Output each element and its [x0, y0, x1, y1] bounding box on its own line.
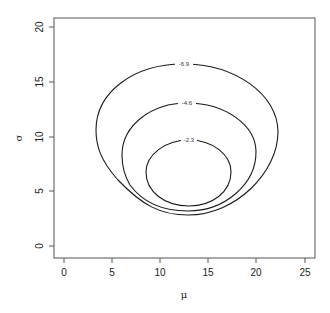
contour-inner	[146, 140, 231, 206]
y-tick-10: 10	[34, 131, 45, 143]
x-tick-5: 5	[109, 267, 115, 278]
x-axis	[64, 258, 305, 263]
contour-label-outer: -6.9	[179, 61, 190, 67]
contour-middle	[122, 103, 256, 211]
x-tick-15: 15	[202, 267, 214, 278]
x-axis-title: μ	[181, 289, 188, 300]
y-tick-0: 0	[34, 243, 45, 249]
contour-plot: 0 5 10 15 20 25 0 5 10 15 20 μ σ -6.9 -4…	[0, 0, 330, 313]
x-tick-20: 20	[250, 267, 262, 278]
contour-label-middle: -4.6	[182, 100, 193, 106]
contour-label-inner: -2.3	[184, 137, 195, 143]
x-tick-25: 25	[299, 267, 311, 278]
x-tick-0: 0	[61, 267, 67, 278]
y-tick-labels: 0 5 10 15 20	[34, 21, 45, 249]
y-tick-20: 20	[34, 21, 45, 33]
x-tick-10: 10	[154, 267, 166, 278]
x-tick-labels: 0 5 10 15 20 25	[61, 267, 311, 278]
y-axis	[49, 27, 54, 246]
y-tick-15: 15	[34, 76, 45, 88]
y-axis-title: σ	[13, 134, 24, 141]
y-tick-5: 5	[34, 188, 45, 194]
